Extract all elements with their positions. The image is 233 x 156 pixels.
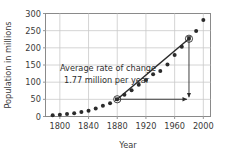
data-point	[79, 110, 83, 114]
population-chart-figure: 180018401880192019602000 050100150200250…	[0, 0, 233, 156]
data-point	[87, 109, 91, 113]
y-axis-label: Population in millions	[3, 21, 13, 108]
data-point	[58, 113, 62, 117]
data-point	[108, 101, 112, 105]
x-axis-label: Year	[118, 140, 137, 150]
data-point	[94, 107, 98, 111]
data-point	[72, 111, 76, 115]
x-tick-label: 1800	[49, 121, 70, 131]
data-point	[51, 113, 55, 117]
data-point	[165, 63, 169, 67]
chart-canvas: 180018401880192019602000 050100150200250…	[0, 0, 233, 156]
annotation-line-2: 1.77 million per year	[64, 75, 150, 85]
data-point	[173, 53, 177, 57]
y-tick-label: 0	[36, 112, 41, 122]
x-tick-label: 1840	[78, 121, 99, 131]
y-tick-label: 250	[25, 26, 41, 36]
y-tick-label: 100	[25, 77, 41, 87]
x-tick-label: 1960	[164, 121, 185, 131]
annotation-line-1: Average rate of change	[60, 63, 156, 73]
data-point	[101, 104, 105, 108]
data-point	[158, 69, 162, 73]
data-point	[194, 29, 198, 33]
y-tick-label: 50	[31, 94, 41, 104]
y-tick-label: 300	[25, 9, 41, 19]
data-point	[65, 112, 69, 116]
data-point	[201, 18, 205, 22]
y-tick-label: 200	[25, 43, 41, 53]
x-tick-label: 1880	[107, 121, 128, 131]
x-tick-label: 2000	[193, 121, 214, 131]
x-tick-label: 1920	[136, 121, 157, 131]
y-tick-label: 150	[25, 60, 41, 70]
